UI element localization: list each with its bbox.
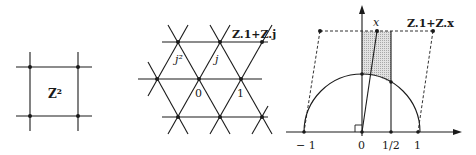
lattice-point — [197, 77, 201, 81]
lattice-point — [155, 77, 159, 81]
zero-label: 0 — [358, 139, 365, 152]
x-axis-arrow-icon — [453, 129, 462, 135]
lattice-point — [176, 115, 180, 119]
lattice-diagram: Z² j² j 0 1 Z.1+Z.j — [0, 0, 476, 155]
lattice-point — [318, 29, 322, 33]
one-label: 1 — [237, 87, 244, 100]
lattice-point — [76, 65, 80, 69]
point-i — [360, 72, 364, 76]
point-x — [375, 29, 379, 33]
lattice-point — [176, 40, 180, 44]
lattice-line — [148, 62, 188, 134]
lattice-line — [252, 106, 268, 134]
point-rho — [389, 80, 393, 84]
lattice-zx-label: Z.1+Z.x — [407, 17, 454, 30]
y-axis-arrow-icon — [359, 5, 365, 14]
half-label: 1/2 — [382, 139, 400, 152]
origin-label: 0 — [195, 87, 202, 100]
point-origin — [360, 130, 364, 134]
x-label: x — [373, 16, 380, 29]
z-squared-label: Z² — [48, 87, 62, 101]
lattice-point — [28, 65, 32, 69]
minus-one-label: − 1 — [296, 139, 316, 152]
point-one — [416, 130, 420, 134]
lattice-point — [28, 114, 32, 118]
lattice-point — [239, 77, 243, 81]
point-half — [389, 130, 393, 134]
lattice-point — [218, 40, 222, 44]
dashed-line — [418, 31, 433, 132]
lattice-point — [260, 115, 264, 119]
lattice-zj-label: Z.1+Z.j — [232, 28, 276, 41]
one-axis-label: 1 — [414, 139, 421, 152]
j-squared-label: j² — [172, 53, 183, 66]
point-minus-one — [302, 130, 306, 134]
lattice-point — [76, 114, 80, 118]
lattice-point — [218, 115, 222, 119]
